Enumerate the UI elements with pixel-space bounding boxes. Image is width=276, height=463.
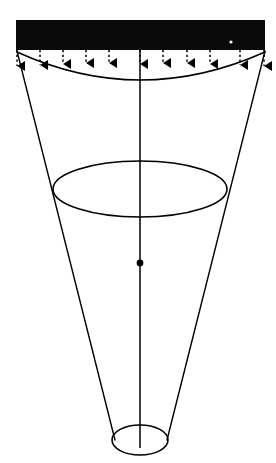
page-background xyxy=(0,0,276,463)
load-bar-rect xyxy=(16,20,265,50)
bar-white-speck xyxy=(229,40,232,43)
cone-load-diagram-svg xyxy=(0,0,276,463)
distributed-load-bar xyxy=(16,20,265,50)
figure-root xyxy=(0,0,276,463)
centroid-dot xyxy=(137,260,144,267)
